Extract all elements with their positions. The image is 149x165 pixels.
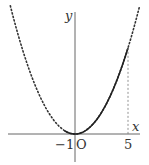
y-axis-label: y	[64, 8, 73, 23]
origin-label: O	[76, 137, 87, 152]
x-axis-label: x	[132, 119, 140, 134]
tick-label-5: 5	[124, 137, 132, 152]
tick-label-neg1: −1	[55, 137, 74, 152]
solid-parabola-segment	[64, 48, 128, 134]
parabola-chart: y x −1 O 5	[0, 0, 149, 165]
